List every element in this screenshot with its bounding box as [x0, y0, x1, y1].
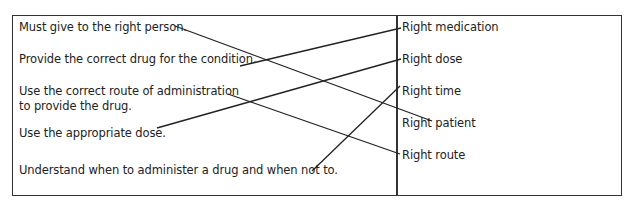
connection-l4-r2	[157, 59, 401, 128]
connection-lines	[0, 0, 636, 205]
connection-l2-r1	[240, 28, 401, 66]
connection-l1-r4	[175, 26, 432, 121]
connection-l3-r5	[228, 94, 400, 154]
